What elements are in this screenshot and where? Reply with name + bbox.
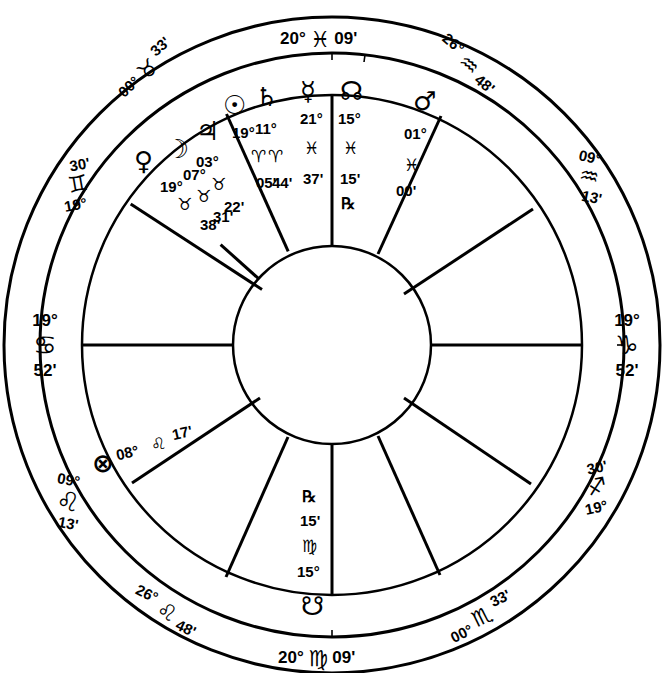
planet-moon-sign: ♉ (196, 188, 211, 206)
horoscope-wheel-chart: 20° ♓ 09' 20° ♍ 09' 19° ♋ 52' 19° ♑ 52' … (0, 0, 664, 673)
north-node-degree: 15° (338, 110, 361, 127)
part-of-fortune-degree: 08° (114, 442, 140, 464)
mc-degree: 20° (280, 29, 306, 48)
ic-sign-glyph: ♍ (308, 646, 328, 671)
mc-minute: 09' (334, 29, 357, 48)
planet-sun-sign: ♈ (251, 148, 266, 166)
planet-venus-sign: ♉ (177, 196, 192, 214)
house-cusp-spokes (82, 95, 582, 595)
jupiter-glyph: ♃ (196, 116, 219, 146)
south-node-minute: 15' (300, 512, 320, 529)
ic-degree: 20° (278, 648, 304, 667)
saturn-glyph: ♄ (255, 82, 278, 112)
mars-sign-glyph: ♓ (404, 155, 419, 175)
cusp-label-gemini: 30' ♊ 19° (44, 154, 105, 216)
planet-north-node-retrograde: ℞ (341, 195, 355, 213)
planet-south-node: ☋ (301, 593, 324, 619)
asc-degree: 19° (18, 312, 72, 329)
mercury-glyph: ☿ (300, 76, 316, 106)
cusp-label-aquarius-lower: 09° ♒ 13' (558, 145, 624, 209)
mercury-sign-glyph: ♓ (304, 138, 319, 158)
planet-jupiter-minute: 22' (224, 198, 244, 216)
venus-sign-glyph: ♉ (177, 194, 192, 214)
planet-mercury-degree: 21° (300, 110, 323, 128)
south-node-sign-glyph: ♍ (302, 536, 317, 556)
north-node-sign-glyph: ♓ (343, 138, 358, 158)
asc-sign-glyph: ♋ (18, 332, 72, 358)
planet-sun-degree: 19° (232, 124, 255, 142)
mars-glyph: ♂ (413, 86, 436, 116)
planet-south-node-minute: 15' (300, 512, 320, 530)
saturn-degree: 11° (255, 120, 277, 137)
planet-south-node-sign: ♍ (302, 538, 317, 556)
planet-north-node-sign: ♓ (343, 140, 358, 158)
north-node-glyph: ☊ (340, 76, 363, 106)
planet-north-node: ☊ (340, 78, 363, 104)
planet-mars-degree: 01° (404, 125, 427, 143)
planet-mercury: ☿ (300, 78, 316, 104)
dsc-degree: 19° (600, 312, 654, 329)
planet-sun: ☉ (223, 92, 246, 118)
asc-cusp-label: 19° ♋ 52' (18, 312, 72, 379)
cusp-label-leo-upper: 09° ♌ 13' (33, 468, 98, 535)
planet-south-node-retrograde: ℞ (302, 488, 316, 506)
inner-aspect-circle (233, 246, 431, 444)
planet-saturn-minute: 44' (272, 174, 292, 192)
dsc-minute: 52' (600, 362, 654, 379)
sun-sign-glyph: ♈ (251, 146, 266, 166)
planet-jupiter: ♃ (196, 118, 219, 144)
part-of-fortune-minute: 17' (170, 422, 194, 443)
mc-cusp-label: 20° ♓ 09' (280, 26, 357, 48)
asc-minute: 52' (18, 362, 72, 379)
planet-moon: ☽ (166, 136, 189, 162)
mercury-minute: 37' (303, 170, 323, 187)
venus-glyph: ♀ (134, 146, 153, 176)
jupiter-sign-glyph: ♉ (211, 174, 226, 194)
south-node-glyph: ☋ (301, 591, 324, 621)
planet-jupiter-sign: ♉ (211, 176, 226, 194)
wheel-graphic (0, 0, 664, 673)
north-node-minute: 15' (340, 170, 360, 187)
planet-mercury-minute: 37' (303, 170, 323, 188)
moon-sign-glyph: ♉ (196, 186, 211, 206)
mars-minute: 00' (396, 182, 416, 199)
sun-degree: 19° (232, 124, 255, 141)
planet-mercury-sign: ♓ (304, 140, 319, 158)
planet-saturn-sign: ♈ (268, 148, 283, 166)
north-node-retrograde-symbol: ℞ (341, 195, 355, 212)
mercury-degree: 21° (300, 110, 323, 127)
planet-mars-sign: ♓ (404, 157, 419, 175)
planet-south-node-degree: 15° (297, 563, 320, 581)
planet-saturn-degree: 11° (255, 120, 277, 138)
planet-jupiter-degree: 03° (196, 153, 219, 171)
moon-glyph: ☽ (166, 134, 189, 164)
planet-mars-minute: 00' (396, 182, 416, 200)
jupiter-degree: 03° (196, 153, 219, 170)
south-node-retrograde-symbol: ℞ (302, 488, 316, 505)
planet-mars: ♂ (413, 88, 436, 114)
venus-degree: 19° (160, 178, 183, 195)
dsc-cusp-label: 19° ♑ 52' (600, 312, 654, 379)
planet-north-node-degree: 15° (338, 110, 361, 128)
south-node-degree: 15° (297, 563, 320, 580)
cusp-label-sagittarius: 30' ♐ 19° (565, 455, 631, 519)
planet-part-of-fortune: ⊗ (92, 450, 114, 476)
mars-degree: 01° (404, 125, 427, 142)
saturn-minute: 44' (272, 174, 292, 191)
planet-saturn: ♄ (255, 84, 278, 110)
ic-minute: 09' (332, 648, 355, 667)
saturn-sign-glyph: ♈ (268, 146, 283, 166)
jupiter-minute: 22' (224, 198, 244, 215)
mc-sign-glyph: ♓ (310, 27, 330, 52)
sun-glyph: ☉ (223, 90, 246, 120)
part-of-fortune-glyph: ⊗ (92, 448, 114, 478)
ic-cusp-label: 20° ♍ 09' (278, 645, 355, 667)
planet-venus: ♀ (134, 148, 153, 174)
planet-north-node-minute: 15' (340, 170, 360, 188)
dsc-sign-glyph: ♑ (600, 332, 654, 358)
